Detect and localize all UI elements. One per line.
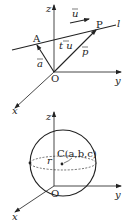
x-axis (15, 72, 54, 108)
x-label: x (12, 105, 18, 116)
svg-text:u: u (72, 8, 78, 19)
vector-u (70, 19, 89, 23)
vector-tu-label: t u (59, 40, 73, 51)
line-l-label: l (117, 18, 120, 29)
diagram-canvas: z y x O l A P a p u t u z (0, 0, 130, 224)
vector-p (54, 30, 96, 72)
vector-a-label: a (37, 58, 43, 69)
y-label: y (114, 75, 121, 86)
svg-text:p: p (82, 46, 89, 57)
point-a-label: A (32, 33, 41, 44)
z-label: z (45, 111, 52, 122)
z-label: z (45, 3, 52, 14)
vector-p-label: p (82, 46, 89, 57)
line-figure: z y x O l A P a p u t u (12, 3, 121, 116)
svg-text:a: a (37, 58, 43, 69)
radius-label: r (47, 155, 53, 166)
center-label: C(a,b,c) (57, 148, 97, 159)
origin-label: O (51, 73, 59, 84)
point-p-label: P (96, 19, 103, 30)
radius-endpoint (29, 162, 32, 165)
y-label: y (114, 189, 121, 200)
x-label: x (12, 211, 18, 222)
center-point (61, 163, 64, 166)
vector-u-label: u (72, 8, 78, 19)
origin-label: O (51, 188, 59, 199)
svg-text:t u: t u (59, 40, 73, 51)
sphere-figure: z y x O C(a,b,c) r (12, 111, 121, 222)
x-axis (15, 186, 54, 212)
